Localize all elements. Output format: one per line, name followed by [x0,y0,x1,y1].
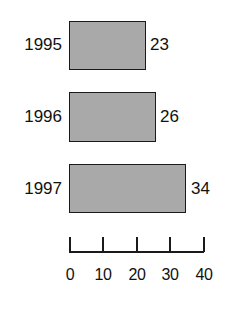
x-tick-label: 0 [55,266,85,284]
category-label: 1995 [2,35,62,55]
category-label: 1996 [2,107,62,127]
x-tick [69,237,71,252]
x-tick [169,237,171,252]
bar-1996 [69,92,156,142]
x-tick [136,237,138,252]
x-tick [203,237,205,252]
value-label: 23 [150,35,169,55]
x-tick-label: 40 [189,266,219,284]
bar-1995 [69,21,146,70]
x-tick-label: 30 [155,266,185,284]
horizontal-bar-chart: 1995 23 1996 26 1997 34 0 10 20 30 40 [0,0,233,312]
value-label: 34 [191,179,210,199]
value-label: 26 [160,107,179,127]
x-tick-label: 10 [88,266,118,284]
x-tick [102,237,104,252]
bar-1997 [69,164,186,213]
x-tick-label: 20 [122,266,152,284]
category-label: 1997 [2,179,62,199]
